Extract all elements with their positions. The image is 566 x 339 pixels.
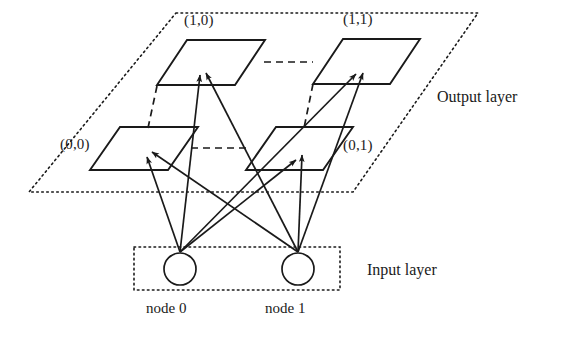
cell-1-1-label: (1,1)	[343, 11, 373, 28]
input-nodes	[164, 253, 314, 285]
cell-0-1-shape	[246, 127, 353, 170]
figure-canvas: (1,0) (1,1) (0,0) (0,1) Output layer Inp…	[0, 0, 566, 339]
cell-1-0-shape	[157, 40, 265, 85]
node-1-shape	[282, 253, 314, 285]
network-diagram	[0, 0, 566, 339]
cell-0-1-label: (0,1)	[343, 137, 373, 154]
edge-node0-cell10	[180, 75, 200, 252]
grid-guide-left-diagonal	[148, 86, 157, 128]
node-1-label: node 1	[265, 300, 305, 317]
input-layer-label: Input layer	[367, 261, 437, 279]
node-0-shape	[164, 253, 196, 285]
cell-1-1-shape	[313, 39, 420, 84]
edge-node0-cell00	[147, 157, 180, 252]
cell-1-0-label: (1,0)	[184, 12, 214, 29]
cell-0-0-label: (0,0)	[60, 136, 90, 153]
output-layer-label: Output layer	[437, 88, 517, 106]
node-0-label: node 0	[146, 300, 186, 317]
cell-0-0-shape	[90, 127, 198, 170]
